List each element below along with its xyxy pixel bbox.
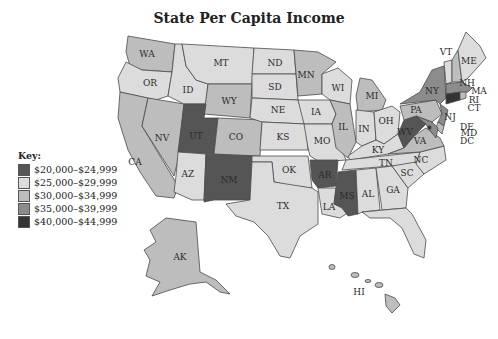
state-FL xyxy=(362,208,426,258)
state-label-OR: OR xyxy=(143,78,157,88)
legend-title: Key: xyxy=(18,150,117,161)
legend-label: $35,000–$39,999 xyxy=(34,203,117,214)
state-label-MN: MN xyxy=(297,70,314,80)
legend-swatch xyxy=(18,190,30,202)
state-label-WY: WY xyxy=(221,96,237,106)
state-DC xyxy=(428,126,431,129)
state-label-WA: WA xyxy=(139,49,155,59)
legend-label: $30,000–$34,999 xyxy=(34,190,117,201)
state-label-KY: KY xyxy=(372,145,385,155)
state-label-AL: AL xyxy=(361,189,374,199)
state-label-WV: WV xyxy=(397,127,413,137)
legend-swatch xyxy=(18,203,30,215)
state-CT xyxy=(446,92,460,104)
state-label-SC: SC xyxy=(400,168,413,178)
legend-item: $25,000–$29,999 xyxy=(18,176,117,189)
state-label-NV: NV xyxy=(155,133,170,143)
state-label-AR: AR xyxy=(317,170,331,180)
state-label-LA: LA xyxy=(323,202,336,212)
state-label-MT: MT xyxy=(213,58,228,68)
state-label-CT: CT xyxy=(468,103,481,113)
state-label-GA: GA xyxy=(386,185,400,195)
state-label-VA: VA xyxy=(413,136,427,146)
state-label-IA: IA xyxy=(311,107,322,117)
state-label-TX: TX xyxy=(277,201,290,211)
state-label-PA: PA xyxy=(410,105,422,115)
state-label-ID: ID xyxy=(183,85,194,95)
legend-swatch xyxy=(18,216,30,228)
state-label-AZ: AZ xyxy=(181,169,195,179)
state-label-OH: OH xyxy=(378,116,393,126)
legend-label: $20,000–$24,999 xyxy=(34,164,117,175)
state-label-MI: MI xyxy=(366,91,379,101)
legend-item: $40,000–$44,999 xyxy=(18,215,117,228)
state-label-IL: IL xyxy=(338,122,348,132)
state-label-CA: CA xyxy=(128,157,142,167)
state-label-HI: HI xyxy=(353,287,365,297)
legend-item: $20,000–$24,999 xyxy=(18,163,117,176)
state-label-WI: WI xyxy=(332,83,345,93)
legend-item: $35,000–$39,999 xyxy=(18,202,117,215)
state-label-TN: TN xyxy=(379,158,393,168)
state-label-ME: ME xyxy=(461,56,477,66)
legend-label: $25,000–$29,999 xyxy=(34,177,117,188)
state-label-UT: UT xyxy=(189,131,203,141)
state-NY xyxy=(400,66,446,104)
legend-label: $40,000–$44,999 xyxy=(34,216,117,227)
state-label-NY: NY xyxy=(425,86,440,96)
legend-swatch xyxy=(18,164,30,176)
state-label-NJ: NJ xyxy=(444,112,456,122)
state-label-VT: VT xyxy=(439,47,453,57)
state-label-IN: IN xyxy=(358,124,370,134)
state-label-CO: CO xyxy=(229,132,243,142)
state-label-KS: KS xyxy=(277,132,290,142)
state-label-OK: OK xyxy=(282,165,296,175)
state-label-MS: MS xyxy=(339,191,354,201)
state-label-NE: NE xyxy=(271,105,285,115)
state-label-DC: DC xyxy=(460,136,474,146)
state-label-SD: SD xyxy=(268,82,281,92)
legend: Key: $20,000–$24,999 $25,000–$29,999 $30… xyxy=(18,150,117,228)
state-label-ND: ND xyxy=(267,58,282,68)
legend-swatch xyxy=(18,177,30,189)
state-label-NM: NM xyxy=(220,175,237,185)
legend-item: $30,000–$34,999 xyxy=(18,189,117,202)
state-label-AK: AK xyxy=(172,252,186,262)
state-label-NC: NC xyxy=(414,155,429,165)
state-AK xyxy=(144,218,230,296)
state-RI xyxy=(460,92,466,100)
state-label-MO: MO xyxy=(314,136,331,146)
